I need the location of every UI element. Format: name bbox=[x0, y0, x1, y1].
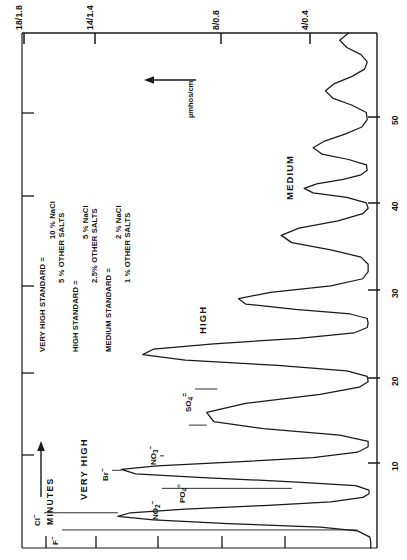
legend-row-medium-name: MEDIUM STANDARD = bbox=[104, 268, 113, 352]
band-label-very-high: VERY HIGH bbox=[78, 438, 89, 500]
conductivity-tick-label-8: 8/0.8 bbox=[211, 10, 221, 30]
ion-charge: ≡ bbox=[175, 484, 182, 488]
ion-base: SO bbox=[184, 400, 193, 412]
time-tick-label-30: 30 bbox=[390, 289, 400, 298]
ion-base: Cl bbox=[33, 518, 42, 526]
ion-label-nitrite: NO2– bbox=[148, 501, 161, 520]
ion-label-phosphate: PO4≡ bbox=[175, 484, 188, 503]
ion-base: NO bbox=[149, 453, 158, 465]
ion-charge: – bbox=[30, 514, 37, 518]
legend-row-very-high-value-1: 10 % NaCl bbox=[48, 201, 57, 239]
conductivity-tick-label-4: 4/0.4 bbox=[300, 10, 310, 30]
legend-row-medium-value-2: 1 % OTHER SALTS bbox=[123, 213, 132, 283]
ion-label-sulfate: SO4= bbox=[181, 393, 194, 412]
conductivity-tick-label-14: 14/1.4 bbox=[85, 5, 95, 30]
legend-equals: = bbox=[104, 268, 113, 273]
legend-equals: = bbox=[71, 280, 80, 285]
time-axis-title: MINUTES bbox=[45, 478, 55, 525]
band-label-medium: MEDIUM bbox=[284, 155, 295, 200]
ion-count: 4 bbox=[181, 488, 188, 492]
ion-base: Br bbox=[101, 472, 110, 481]
time-tick-label-50: 50 bbox=[390, 116, 400, 125]
time-tick-label-20: 20 bbox=[390, 377, 400, 386]
ion-base: PO bbox=[178, 491, 187, 503]
band-label-high: HIGH bbox=[197, 306, 208, 334]
time-tick-label-10: 10 bbox=[390, 462, 400, 471]
ion-charge: – bbox=[48, 536, 55, 540]
ion-base: NO bbox=[151, 508, 160, 520]
legend-row-very-high-name: VERY HIGH STANDARD = bbox=[38, 257, 47, 352]
ion-charge: – bbox=[98, 468, 105, 472]
legend-row-medium-value-1: 2 % NaCl bbox=[114, 205, 123, 239]
ion-charge: = bbox=[181, 393, 188, 397]
legend-standard-name: VERY HIGH STANDARD bbox=[38, 264, 47, 352]
conductivity-tick-label-18: 18/1.8 bbox=[14, 5, 24, 30]
ion-label-fluoride: F– bbox=[48, 536, 60, 545]
ion-count: 4 bbox=[187, 397, 194, 401]
ion-charge: – bbox=[148, 501, 155, 505]
time-tick-label-40: 40 bbox=[390, 202, 400, 211]
legend-row-high-name: HIGH STANDARD = bbox=[71, 280, 80, 352]
ion-count: 3 bbox=[152, 449, 159, 453]
legend-row-high-value-2: 2.5% OTHER SALTS bbox=[90, 208, 99, 283]
legend-row-high-value-1: 5 % NaCl bbox=[81, 205, 90, 239]
legend-standard-name: HIGH STANDARD bbox=[71, 287, 80, 352]
ion-base: F bbox=[51, 540, 60, 545]
legend-standard-name: MEDIUM STANDARD bbox=[104, 275, 113, 352]
ion-label-nitrate: NO3– bbox=[146, 446, 159, 465]
ion-charge: – bbox=[146, 446, 153, 450]
legend-equals: = bbox=[38, 257, 47, 262]
ion-count: 2 bbox=[154, 504, 161, 508]
ion-label-chloride: Cl– bbox=[30, 514, 42, 526]
legend-row-very-high-value-2: 5 % OTHER SALTS bbox=[57, 213, 66, 283]
ion-label-bromide: Br– bbox=[98, 468, 110, 481]
conductivity-unit-label: µmhos/cm bbox=[186, 81, 195, 118]
ion-chromatogram-figure: 18/1.8 14/1.4 8/0.8 4/0.4 µmhos/cm 10 20… bbox=[0, 0, 407, 560]
